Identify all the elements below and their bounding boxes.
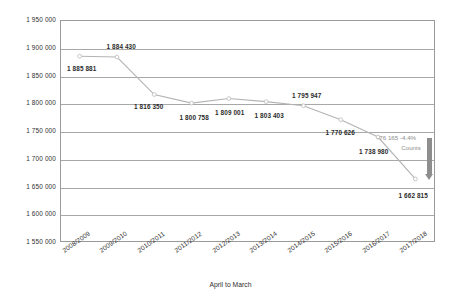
delta-bar <box>427 138 432 174</box>
delta-value-label: -76 165 -4.4% <box>377 134 416 141</box>
y-axis-tick: 1 650 000 <box>0 183 56 190</box>
y-axis-tick: 1 700 000 <box>0 155 56 162</box>
y-axis-tick: 1 900 000 <box>0 44 56 51</box>
data-label: 1 884 430 <box>107 43 136 50</box>
y-axis-tick: 1 750 000 <box>0 127 56 134</box>
data-label: 1 662 815 <box>399 192 428 199</box>
data-label: 1 803 403 <box>255 112 284 119</box>
data-label: 1 770 626 <box>326 129 355 136</box>
y-axis-tick: 1 800 000 <box>0 99 56 106</box>
y-axis-tick: 1 550 000 <box>0 238 56 245</box>
data-label: 1 809 001 <box>215 109 244 116</box>
data-label: 1 795 947 <box>292 92 321 99</box>
line-chart: 1 950 0001 900 0001 850 0001 800 0001 75… <box>0 0 461 299</box>
data-label: 1 885 881 <box>67 65 96 72</box>
y-axis-tick: 1 850 000 <box>0 72 56 79</box>
data-label: 1 816 350 <box>134 103 163 110</box>
plot-area: 1 885 8811 884 4301 816 3501 800 7581 80… <box>60 20 435 242</box>
delta-arrow-icon <box>425 174 433 180</box>
data-label: 1 738 980 <box>359 148 388 155</box>
data-label: 1 800 758 <box>180 114 209 121</box>
y-axis-tick: 1 600 000 <box>0 210 56 217</box>
delta-caption-label: Counts <box>401 144 421 151</box>
y-axis-tick: 1 950 000 <box>0 16 56 23</box>
x-axis-title: April to March <box>0 281 461 288</box>
series-line <box>61 21 434 241</box>
